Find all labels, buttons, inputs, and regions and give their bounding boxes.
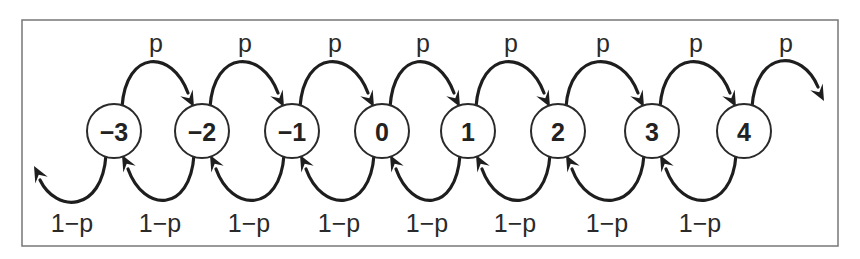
state-node: −2	[175, 104, 229, 158]
forward-transition-arc	[210, 62, 278, 107]
backward-prob-label: 1−p	[318, 209, 360, 237]
random-walk-diagram: −3−2−101234 pppppppp1−p1−p1−p1−p1−p1−p1−…	[0, 0, 860, 259]
state-node: 4	[717, 104, 771, 158]
state-label: 1	[461, 118, 475, 146]
forward-transition-arc	[300, 62, 368, 107]
state-node: 3	[625, 104, 679, 158]
state-node: 1	[441, 104, 495, 158]
forward-transition-arc	[390, 62, 454, 107]
backward-prob-label: 1−p	[406, 209, 448, 237]
state-label: 3	[645, 118, 659, 146]
state-node: −1	[265, 104, 319, 158]
backward-transition-arc	[40, 155, 106, 202]
forward-transition-arc	[476, 62, 544, 107]
forward-prob-label: p	[416, 29, 430, 57]
forward-prob-label: p	[328, 29, 342, 57]
forward-prob-label: p	[149, 29, 163, 57]
backward-prob-label: 1−p	[679, 209, 721, 237]
state-label: 2	[551, 118, 565, 146]
backward-transition-arc	[128, 155, 194, 200]
backward-prob-label: 1−p	[586, 209, 628, 237]
forward-transition-arc	[566, 62, 638, 107]
state-node: 2	[531, 104, 585, 158]
state-node: −3	[87, 104, 141, 158]
forward-prob-label: p	[689, 29, 703, 57]
state-label: −1	[278, 118, 307, 146]
backward-transition-arc	[482, 155, 550, 200]
backward-transition-arc	[306, 155, 374, 200]
state-label: 4	[737, 118, 751, 146]
forward-prob-label: p	[596, 29, 610, 57]
forward-prob-label: p	[779, 29, 793, 57]
forward-prob-label: p	[238, 29, 252, 57]
forward-transition-arc	[660, 62, 730, 107]
backward-transition-arc	[396, 155, 460, 200]
backward-prob-label: 1−p	[228, 209, 270, 237]
forward-transition-arc	[752, 61, 818, 107]
backward-prob-label: 1−p	[51, 209, 93, 237]
forward-transition-arc	[122, 62, 188, 107]
forward-prob-label: p	[504, 29, 518, 57]
backward-transition-arc	[666, 155, 736, 200]
state-label: −3	[100, 118, 129, 146]
state-label: 0	[375, 118, 389, 146]
backward-prob-label: 1−p	[494, 209, 536, 237]
backward-transition-arc	[216, 155, 284, 200]
backward-prob-label: 1−p	[139, 209, 181, 237]
state-label: −2	[188, 118, 217, 146]
state-node: 0	[355, 104, 409, 158]
backward-transition-arc	[572, 155, 644, 200]
